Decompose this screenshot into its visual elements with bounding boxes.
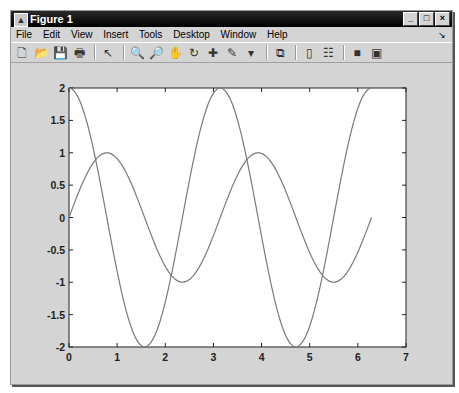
menu-edit[interactable]: Edit xyxy=(43,29,60,40)
x-tick-label: 3 xyxy=(211,351,217,363)
zoom-in-icon[interactable]: 🔍 xyxy=(129,45,145,61)
figure-toolbar: 🗋📂💾🖶↖🔍🔎✋↻✚✎▾⧉▯☷■▣ xyxy=(11,42,452,63)
menu-window[interactable]: Window xyxy=(221,29,257,40)
zoom-out-icon[interactable]: 🔎 xyxy=(148,45,164,61)
x-tick-label: 0 xyxy=(66,351,72,363)
menu-bar: File Edit View Insert Tools Desktop Wind… xyxy=(11,28,452,42)
menu-view[interactable]: View xyxy=(71,29,93,40)
insert-colorbar-icon[interactable]: ▯ xyxy=(301,45,317,61)
x-tick-label: 6 xyxy=(355,351,361,363)
y-tick-label: -0.5 xyxy=(47,244,65,256)
y-tick-label: -1.5 xyxy=(47,309,65,321)
insert-legend-icon[interactable]: ☷ xyxy=(320,45,336,61)
toolbar-separator xyxy=(295,45,297,60)
edit-plot-arrow-icon[interactable]: ↖ xyxy=(100,45,116,61)
maximize-button[interactable]: □ xyxy=(419,12,434,26)
chart-svg: 01234567-2-1.5-1-0.500.511.52 xyxy=(11,63,452,383)
dock-figure-icon[interactable]: ↘ xyxy=(438,28,446,42)
toolbar-separator xyxy=(94,45,96,60)
y-tick-label: 0.5 xyxy=(50,179,65,191)
link-plot-icon[interactable]: ⧉ xyxy=(272,45,288,61)
close-button[interactable]: × xyxy=(435,12,450,26)
window-title: Figure 1 xyxy=(30,11,73,27)
brush-dropdown-icon[interactable]: ▾ xyxy=(243,45,259,61)
brush-icon[interactable]: ✎ xyxy=(224,45,240,61)
rotate-3d-icon[interactable]: ↻ xyxy=(186,45,202,61)
pan-hand-icon[interactable]: ✋ xyxy=(167,45,183,61)
y-tick-label: -2 xyxy=(56,341,65,353)
y-tick-label: 1.5 xyxy=(50,114,65,126)
plot-area: 01234567-2-1.5-1-0.500.511.52 xyxy=(11,63,452,384)
minimize-button[interactable]: _ xyxy=(403,12,418,26)
menu-insert[interactable]: Insert xyxy=(103,29,128,40)
toolbar-separator xyxy=(123,45,125,60)
title-bar[interactable]: ▲ Figure 1 _ □ × xyxy=(11,11,452,27)
y-tick-label: 2 xyxy=(59,82,65,94)
data-cursor-icon[interactable]: ✚ xyxy=(205,45,221,61)
menu-desktop[interactable]: Desktop xyxy=(173,29,210,40)
axes-box xyxy=(69,88,406,347)
menu-tools[interactable]: Tools xyxy=(139,29,162,40)
x-tick-label: 5 xyxy=(307,351,313,363)
x-tick-label: 1 xyxy=(114,351,120,363)
figure-window: ▲ Figure 1 _ □ × File Edit View Insert T… xyxy=(10,10,453,385)
print-icon[interactable]: 🖶 xyxy=(71,45,87,61)
show-plot-tools-icon[interactable]: ▣ xyxy=(368,45,384,61)
save-icon[interactable]: 💾 xyxy=(52,45,68,61)
y-tick-label: 0 xyxy=(59,212,65,224)
toolbar-separator xyxy=(266,45,268,60)
open-file-icon[interactable]: 📂 xyxy=(33,45,49,61)
matlab-figure-icon: ▲ xyxy=(14,13,28,27)
x-tick-label: 2 xyxy=(162,351,168,363)
x-tick-label: 4 xyxy=(259,351,265,363)
toolbar-separator xyxy=(343,45,345,60)
menu-file[interactable]: File xyxy=(16,29,32,40)
menu-help[interactable]: Help xyxy=(267,29,288,40)
x-tick-label: 7 xyxy=(403,351,409,363)
hide-plot-tools-icon[interactable]: ■ xyxy=(349,45,365,61)
y-tick-label: -1 xyxy=(56,276,65,288)
new-figure-icon[interactable]: 🗋 xyxy=(14,45,30,61)
y-tick-label: 1 xyxy=(59,147,65,159)
